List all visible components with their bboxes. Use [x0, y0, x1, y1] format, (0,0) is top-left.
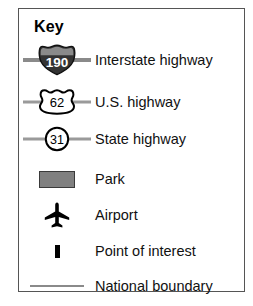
legend-row-point-of-interest: Point of interest [19, 233, 246, 269]
state-highway-circle-svg: 31 [41, 125, 73, 153]
legend-row-park: Park [19, 161, 246, 197]
point-of-interest-marker-icon [55, 245, 60, 258]
symbol-cell-us-highway: 62 [19, 84, 95, 120]
interstate-shield-icon: 190 [21, 45, 93, 75]
interstate-shield-graphic: 190 [36, 44, 78, 76]
state-highway-circle-graphic: 31 [41, 125, 73, 153]
legend-row-us-highway: 62 U.S. highway [19, 84, 246, 120]
legend-row-state-highway: 31 State highway [19, 121, 246, 157]
us-highway-number: 62 [50, 95, 64, 110]
park-swatch-icon [39, 171, 75, 188]
state-highway-circle-icon: 31 [21, 124, 93, 154]
symbol-cell-interstate: 190 [19, 42, 95, 78]
symbol-cell-park [19, 161, 95, 197]
legend-row-national-boundary: National boundary [19, 268, 246, 304]
symbol-cell-state-highway: 31 [19, 121, 95, 157]
national-boundary-line-icon [30, 285, 84, 288]
legend-label-state-highway: State highway [95, 132, 186, 147]
legend-row-interstate-highway: 190 Interstate highway [19, 42, 246, 78]
map-legend-panel: Key 190 Interstate highway [18, 8, 245, 292]
airplane-icon [43, 201, 71, 229]
legend-row-airport: Airport [19, 197, 246, 233]
interstate-shield-svg: 190 [36, 44, 78, 76]
legend-label-airport: Airport [95, 208, 138, 223]
symbol-cell-national-boundary [19, 268, 95, 304]
us-highway-shield-svg: 62 [36, 88, 78, 116]
legend-label-interstate-highway: Interstate highway [95, 53, 213, 68]
legend-label-us-highway: U.S. highway [95, 95, 180, 110]
legend-label-point-of-interest: Point of interest [95, 244, 196, 259]
legend-title: Key [34, 18, 64, 36]
symbol-cell-point-of-interest [19, 233, 95, 269]
state-highway-number: 31 [50, 133, 64, 147]
legend-label-national-boundary: National boundary [95, 279, 213, 294]
us-highway-shield-graphic: 62 [36, 88, 78, 116]
interstate-number: 190 [46, 55, 69, 70]
symbol-cell-airport [19, 197, 95, 233]
legend-label-park: Park [95, 172, 125, 187]
us-highway-shield-icon: 62 [21, 87, 93, 117]
